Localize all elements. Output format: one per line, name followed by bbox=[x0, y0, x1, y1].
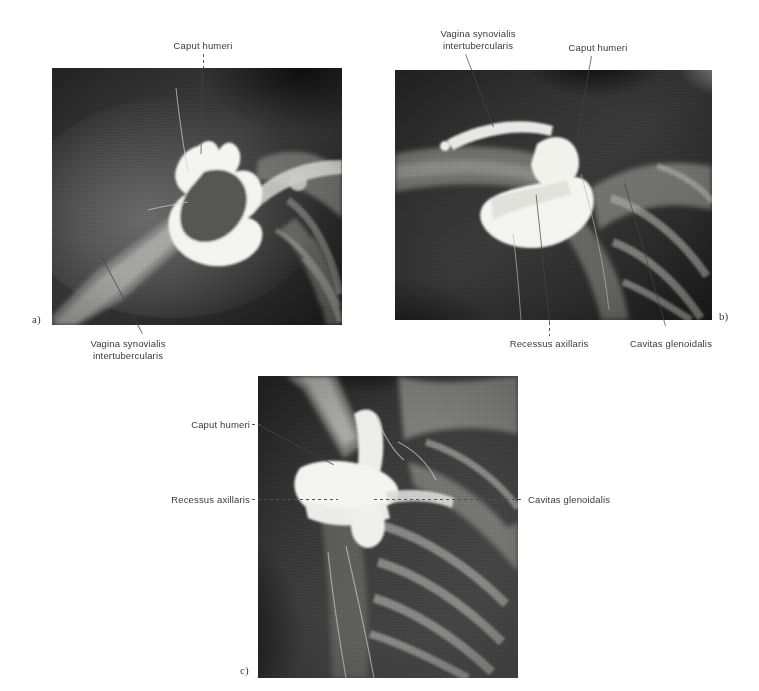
label-cavitas-glenoidalis-b: Cavitas glenoidalis bbox=[630, 338, 712, 350]
label-caput-humeri-c: Caput humeri bbox=[130, 419, 250, 431]
figure-plate: Caput humeri Vagina synovialisintertuber… bbox=[0, 0, 759, 691]
label-cavitas-glenoidalis-c: Cavitas glenoidalis bbox=[528, 494, 668, 506]
panel-a-radiograph bbox=[52, 68, 342, 325]
label-vagina-synovialis-a-line2: intertubercularis bbox=[93, 350, 163, 361]
leader-caput-humeri-a bbox=[203, 54, 204, 68]
label-caput-humeri-b: Caput humeri bbox=[569, 42, 628, 54]
label-caput-humeri-a: Caput humeri bbox=[174, 40, 233, 52]
panel-b-xray-image bbox=[395, 70, 712, 320]
panel-id-b: b) bbox=[719, 310, 728, 322]
leader-recessus-axillaris-b-dash bbox=[549, 322, 550, 336]
panel-id-c: c) bbox=[240, 664, 249, 676]
panel-b-radiograph bbox=[395, 70, 712, 320]
label-vagina-synovialis-a-line1: Vagina synovialis bbox=[90, 338, 165, 349]
label-recessus-axillaris-b: Recessus axillaris bbox=[510, 338, 589, 350]
label-vagina-synovialis-a: Vagina synovialisintertubercularis bbox=[90, 338, 165, 361]
leader-recessus-axillaris-c bbox=[252, 499, 338, 500]
panel-c-radiograph bbox=[258, 376, 518, 678]
panel-a-xray-image bbox=[52, 68, 342, 325]
label-vagina-synovialis-b: Vagina synovialisintertubercularis bbox=[440, 28, 515, 51]
label-vagina-synovialis-b-line2: intertubercularis bbox=[443, 40, 513, 51]
label-vagina-synovialis-b-line1: Vagina synovialis bbox=[440, 28, 515, 39]
panel-id-a: a) bbox=[32, 313, 41, 325]
label-recessus-axillaris-c: Recessus axillaris bbox=[130, 494, 250, 506]
panel-c-xray-image bbox=[258, 376, 518, 678]
leader-cavitas-glenoidalis-c bbox=[374, 499, 524, 500]
